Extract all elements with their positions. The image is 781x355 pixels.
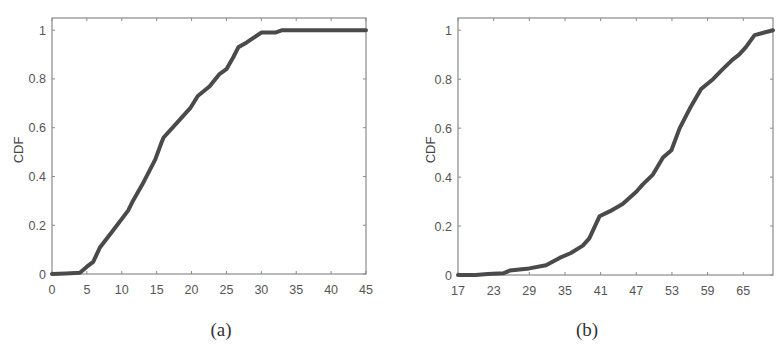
x-tick-label: 53	[665, 284, 679, 298]
y-tick-label: 0.6	[29, 121, 46, 135]
y-axis-label: CDF	[423, 137, 438, 164]
cdf-curve	[458, 30, 773, 275]
chart-caption: (b)	[576, 319, 598, 341]
y-tick-label: 0	[445, 269, 452, 283]
y-tick-label: 0.4	[435, 171, 452, 185]
y-tick-label: 0.2	[435, 220, 452, 234]
x-axis: 172329354147535965	[451, 18, 750, 298]
x-tick-label: 20	[185, 283, 199, 297]
x-tick-label: 17	[451, 284, 465, 298]
y-tick-label: 0.4	[29, 170, 46, 184]
y-tick-label: 0.8	[29, 72, 46, 86]
chart-caption: (a)	[210, 319, 231, 341]
x-tick-label: 47	[629, 284, 643, 298]
y-tick-label: 0.8	[435, 73, 452, 87]
chart-b: 172329354147535965 00.20.40.60.81 CDF (b…	[423, 18, 773, 341]
x-tick-label: 35	[289, 283, 303, 297]
axes-frame	[52, 18, 366, 274]
y-tick-label: 1	[39, 24, 46, 38]
y-tick-label: 0	[39, 268, 46, 282]
x-tick-label: 30	[254, 283, 268, 297]
x-tick-label: 23	[487, 284, 501, 298]
y-tick-label: 1	[445, 24, 452, 38]
x-tick-label: 25	[219, 283, 233, 297]
x-tick-label: 10	[115, 283, 129, 297]
y-axis-label: CDF	[11, 137, 26, 164]
y-axis: 00.20.40.60.81	[29, 24, 366, 282]
figure: 051015202530354045 00.20.40.60.81 CDF (a…	[0, 0, 781, 355]
x-tick-label: 65	[736, 284, 750, 298]
x-tick-label: 5	[83, 283, 90, 297]
chart-a: 051015202530354045 00.20.40.60.81 CDF (a…	[11, 18, 373, 341]
y-axis: 00.20.40.60.81	[435, 24, 773, 283]
x-tick-label: 15	[150, 283, 164, 297]
y-tick-label: 0.6	[435, 122, 452, 136]
x-tick-label: 29	[522, 284, 536, 298]
x-tick-label: 45	[359, 283, 373, 297]
axes-frame	[458, 18, 773, 275]
x-tick-label: 40	[324, 283, 338, 297]
x-tick-label: 41	[594, 284, 608, 298]
x-tick-label: 35	[558, 284, 572, 298]
cdf-curve	[52, 30, 366, 274]
x-tick-label: 59	[701, 284, 715, 298]
x-tick-label: 0	[49, 283, 56, 297]
y-tick-label: 0.2	[29, 219, 46, 233]
